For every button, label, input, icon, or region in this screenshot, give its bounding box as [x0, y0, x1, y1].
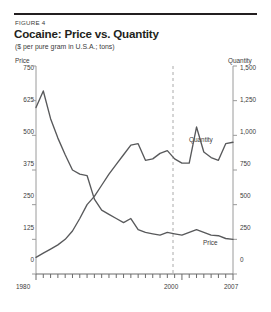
figure-cocaine-price-vs-quantity: FIGURE 4 Cocaine: Price vs. Quantity ($ … — [0, 0, 271, 312]
price-line — [36, 91, 233, 239]
x-axis-ticks — [36, 274, 233, 280]
series-layer — [36, 91, 233, 257]
left-axis-ticks — [32, 66, 36, 274]
axis-layer — [32, 66, 237, 280]
chart-svg — [0, 0, 271, 312]
quantity-line — [36, 127, 233, 257]
right-axis-ticks — [233, 66, 237, 274]
chart-plot-area — [0, 0, 271, 312]
